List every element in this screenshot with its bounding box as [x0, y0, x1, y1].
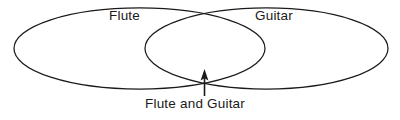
- left-set-label: Flute: [109, 9, 140, 23]
- venn-diagram: Flute Guitar Flute and Guitar: [0, 0, 400, 120]
- right-set-label: Guitar: [255, 9, 293, 23]
- intersection-label: Flute and Guitar: [145, 97, 245, 111]
